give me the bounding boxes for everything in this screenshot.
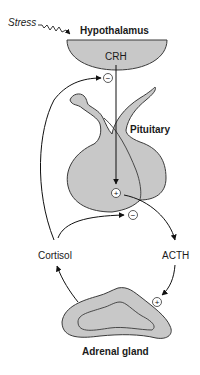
stress-label: Stress (8, 18, 36, 28)
minus-hypothalamus-sign: − (106, 74, 111, 83)
pituitary-label: Pituitary (130, 125, 170, 135)
hypothalamus-label: Hypothalamus (80, 26, 149, 36)
plus-pituitary-sign: + (114, 189, 119, 198)
adrenal-gland-label: Adrenal gland (82, 347, 149, 357)
acth-to-adrenal-arrow (162, 265, 175, 295)
adrenal-to-cortisol-arrow (57, 266, 78, 302)
cortisol-to-pituitary-arrow (58, 215, 124, 238)
hpa-diagram: + − − + (0, 0, 200, 375)
stress-arrow (38, 25, 70, 34)
minus-pituitary-sign: − (131, 211, 136, 220)
acth-label: ACTH (162, 251, 189, 261)
plus-adrenal-sign: + (155, 298, 160, 307)
cortisol-label: Cortisol (38, 251, 72, 261)
crh-label: CRH (105, 52, 127, 62)
